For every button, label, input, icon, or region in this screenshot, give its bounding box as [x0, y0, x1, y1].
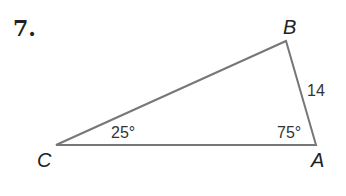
side-ab-length: 14	[307, 82, 325, 99]
angle-c-measure: 25°	[111, 124, 135, 141]
triangle-diagram: 7. B C A 14 25° 75°	[0, 0, 346, 196]
problem-number: 7.	[13, 15, 36, 41]
angle-a-measure: 75°	[277, 124, 301, 141]
vertex-label-a: A	[310, 149, 324, 171]
vertex-label-c: C	[37, 149, 52, 171]
vertex-label-b: B	[283, 16, 296, 38]
